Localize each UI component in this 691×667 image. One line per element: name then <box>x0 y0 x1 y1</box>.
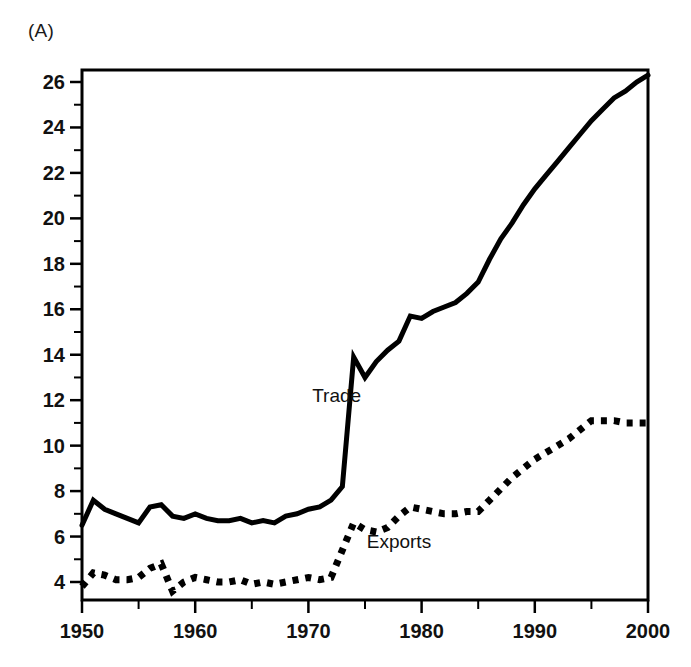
y-axis-tick-label: 8 <box>54 480 65 502</box>
y-axis-tick-label: 20 <box>43 207 65 229</box>
x-axis-tick-label: 2000 <box>626 620 671 642</box>
y-axis-tick-label: 12 <box>43 389 65 411</box>
y-axis: 468101214161820222426 <box>43 71 82 593</box>
x-axis: 195019601970198019902000 <box>60 600 671 642</box>
y-axis-tick-label: 6 <box>54 526 65 548</box>
series-annotations: TradeExports <box>312 385 431 551</box>
y-axis-tick-label: 24 <box>43 116 66 138</box>
chart-figure: (A) 468101214161820222426 19501960197019… <box>0 0 691 667</box>
series-label-trade: Trade <box>312 385 361 406</box>
x-axis-tick-label: 1980 <box>399 620 444 642</box>
plot-border <box>82 70 648 600</box>
y-axis-tick-label: 26 <box>43 71 65 93</box>
y-axis-tick-label: 10 <box>43 435 65 457</box>
line-chart-plot: 468101214161820222426 195019601970198019… <box>0 0 691 667</box>
series-line-trade <box>82 75 648 525</box>
x-axis-tick-label: 1970 <box>286 620 331 642</box>
data-series-group <box>82 75 648 591</box>
series-label-exports: Exports <box>367 531 431 552</box>
x-axis-tick-label: 1990 <box>513 620 558 642</box>
x-axis-tick-label: 1950 <box>60 620 105 642</box>
plot-frame <box>82 70 648 600</box>
y-axis-tick-label: 18 <box>43 253 65 275</box>
y-axis-tick-label: 16 <box>43 298 65 320</box>
y-axis-tick-label: 4 <box>54 571 66 593</box>
series-line-exports <box>82 421 648 591</box>
y-axis-tick-label: 22 <box>43 162 65 184</box>
x-axis-tick-label: 1960 <box>173 620 218 642</box>
y-axis-tick-label: 14 <box>43 344 66 366</box>
